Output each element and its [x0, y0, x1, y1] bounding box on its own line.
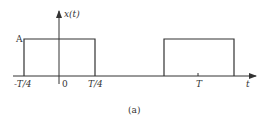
amplitude-label: A [15, 34, 23, 44]
x-axis-label: t [246, 79, 250, 89]
tick-label-neg-quarter: -T/4 [14, 79, 32, 89]
periodic-pulse-diagram: x(t) A -T/4 0 T/4 T t (a) [0, 0, 270, 121]
tick-label-pos-quarter: T/4 [88, 79, 103, 89]
y-axis-label: x(t) [64, 9, 80, 19]
figure-caption: (a) [128, 105, 140, 115]
tick-label-zero: 0 [62, 79, 68, 89]
tick-label-period: T [196, 79, 203, 89]
pulse-2 [164, 39, 234, 76]
